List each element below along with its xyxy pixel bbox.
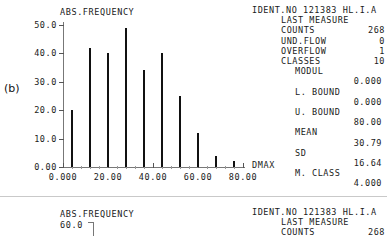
x-tick-label: 0.000 <box>49 172 78 182</box>
x-tick-minor <box>171 166 172 169</box>
histogram-bar <box>197 133 199 167</box>
overflow-value: 1 <box>379 46 385 56</box>
counts-label: COUNTS <box>281 25 315 35</box>
x-tick <box>243 163 244 168</box>
histogram-bar <box>71 110 73 167</box>
y-tick-label: 20.0 <box>34 105 57 115</box>
y-tick-label: 10.0 <box>34 134 57 144</box>
c-y-top-tick: 60.0 <box>60 220 83 230</box>
mean-value: 30.79 <box>281 138 382 148</box>
overflow-row: OVERFLOW 1 <box>281 46 385 56</box>
c-counts-row: COUNTS 268 <box>281 227 385 236</box>
c-ident-line: IDENT.NO 121383 HL.I.A <box>252 207 387 217</box>
x-tick-minor <box>207 166 208 169</box>
underflow-label: UND.FLOW <box>281 36 326 46</box>
x-tick-label: 20.00 <box>94 172 123 182</box>
x-tick-minor <box>81 166 82 169</box>
printout-sheet: (b) ABS.FREQUENCY 0.0010.020.030.040.050… <box>0 0 387 236</box>
x-tick-label: 40.00 <box>139 172 168 182</box>
classes-label: CLASSES <box>281 56 321 66</box>
modul-value: 0.000 <box>281 76 382 86</box>
x-tick-minor <box>99 166 100 169</box>
x-tick-minor <box>225 166 226 169</box>
y-tick-label: 40.0 <box>34 48 57 58</box>
mean-label: MEAN <box>295 127 387 137</box>
histogram-bar <box>233 161 235 167</box>
y-tick-label: 0.00 <box>34 162 57 172</box>
y-tick <box>59 82 64 83</box>
plot-area: 0.0010.020.030.040.050.0 0.00020.0040.00… <box>63 22 243 168</box>
histogram-panel-b: (b) ABS.FREQUENCY 0.0010.020.030.040.050… <box>0 0 387 193</box>
lower-bound-value: 0.000 <box>281 97 382 107</box>
x-tick-minor <box>135 166 136 169</box>
c-y-axis-line <box>93 222 94 236</box>
counts-value: 268 <box>368 25 385 35</box>
page-divider <box>0 196 387 197</box>
x-tick <box>153 163 154 168</box>
c-y-axis-title: ABS.FREQUENCY <box>60 209 134 219</box>
sd-value: 16.64 <box>281 158 382 168</box>
lower-bound-label: L. BOUND <box>295 87 387 97</box>
m-class-value: 4.000 <box>281 178 382 188</box>
x-tick-minor <box>189 166 190 169</box>
m-class-label: M. CLASS <box>295 168 387 178</box>
counts-row: COUNTS 268 <box>281 25 385 35</box>
x-tick-label: 60.00 <box>184 172 213 182</box>
histogram-bar <box>125 28 127 167</box>
upper-bound-value: 80.00 <box>281 117 382 127</box>
overflow-label: OVERFLOW <box>281 46 326 56</box>
x-tick <box>63 163 64 168</box>
underflow-row: UND.FLOW 0 <box>281 36 385 46</box>
figure-label: (b) <box>4 82 20 95</box>
c-counts-label: COUNTS <box>281 227 315 236</box>
underflow-value: 0 <box>379 36 385 46</box>
statistics-panel: IDENT.NO 121383 HL.I.A LAST MEASURE COUN… <box>252 5 387 189</box>
histogram-panel-c-partial: ABS.FREQUENCY 60.0 IDENT.NO 121383 HL.I.… <box>0 202 387 236</box>
histogram-bar <box>179 96 181 167</box>
histogram-bar <box>143 70 145 167</box>
y-tick <box>59 25 64 26</box>
histogram-bar <box>215 156 217 167</box>
histogram-bar <box>161 53 163 167</box>
sd-label: SD <box>295 148 387 158</box>
x-tick-minor <box>117 166 118 169</box>
y-axis-title: ABS.FREQUENCY <box>60 7 134 17</box>
y-tick <box>59 53 64 54</box>
upper-bound-label: U. BOUND <box>295 107 387 117</box>
ident-line: IDENT.NO 121383 HL.I.A <box>252 5 387 15</box>
histogram-bar <box>107 53 109 167</box>
c-statistics-panel: IDENT.NO 121383 HL.I.A LAST MEASURE COUN… <box>252 207 387 236</box>
y-tick <box>59 139 64 140</box>
c-counts-value: 268 <box>368 227 385 236</box>
classes-value: 10 <box>374 56 385 66</box>
y-tick-label: 50.0 <box>34 20 57 30</box>
y-tick <box>59 110 64 111</box>
classes-row: CLASSES 10 <box>281 56 385 66</box>
histogram-bar <box>89 48 91 167</box>
last-measure-label: LAST MEASURE <box>281 15 387 25</box>
y-tick-label: 30.0 <box>34 77 57 87</box>
c-last-measure-label: LAST MEASURE <box>281 217 387 227</box>
y-axis-line <box>63 22 64 168</box>
modul-label: MODUL <box>295 66 387 76</box>
